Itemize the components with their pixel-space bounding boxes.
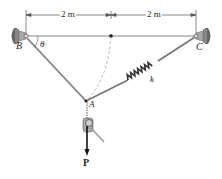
diagram-canvas	[0, 0, 222, 179]
dimension-lines	[26, 10, 196, 34]
label-c: C	[196, 42, 203, 52]
label-k: k	[150, 75, 154, 84]
pulley	[83, 118, 104, 142]
label-p: P	[83, 158, 89, 168]
label-b: B	[16, 41, 22, 51]
label-a: A	[89, 100, 95, 109]
label-theta: θ	[40, 40, 44, 49]
spring	[126, 62, 153, 80]
rod-spring-c	[158, 37, 195, 61]
rod-a-spring	[86, 80, 128, 101]
dimension-label-left: 2 m	[60, 10, 76, 19]
dimension-label-right: 2 m	[146, 10, 162, 19]
